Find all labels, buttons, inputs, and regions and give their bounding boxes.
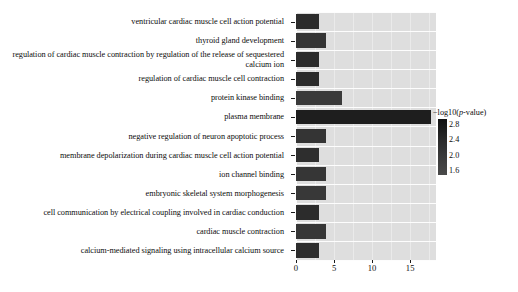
- y-axis-label: regulation of cardiac muscle contraction…: [0, 50, 284, 69]
- y-axis-labels: ventricular cardiac muscle cell action p…: [0, 12, 288, 260]
- go-enrichment-bar-chart: ventricular cardiac muscle cell action p…: [0, 0, 518, 292]
- gridline-horizontal: [296, 126, 436, 127]
- x-axis-tick-label: 15: [406, 263, 415, 273]
- y-axis-tick: [291, 79, 295, 80]
- y-axis-tick: [291, 98, 295, 99]
- colorbar-tick-label: 2.4: [449, 136, 459, 144]
- bar: [296, 52, 319, 67]
- y-axis-tick: [291, 22, 295, 23]
- colorbar-title-variable: p: [459, 108, 463, 117]
- y-axis-label: cell communication by electrical couplin…: [0, 208, 284, 217]
- bar: [296, 91, 342, 106]
- y-axis-label: cardiac muscle contraction: [0, 227, 284, 236]
- y-axis-tick: [291, 41, 295, 42]
- colorbar-tick-label: 2.8: [449, 121, 459, 129]
- y-axis-tick: [291, 60, 295, 61]
- y-axis-tick: [291, 174, 295, 175]
- colorbar-tick-label: 1.6: [449, 167, 459, 175]
- y-axis-label: membrane depolarization during cardiac m…: [0, 151, 284, 160]
- bar: [296, 186, 326, 201]
- bar: [296, 129, 326, 144]
- y-axis-label: ion channel binding: [0, 170, 284, 179]
- y-axis-tick: [291, 250, 295, 251]
- gridline-horizontal: [296, 241, 436, 242]
- x-axis-tick-label: 0: [294, 263, 298, 273]
- gridline-horizontal: [296, 203, 436, 204]
- gridline-horizontal: [296, 184, 436, 185]
- bar: [296, 110, 431, 125]
- y-axis-label: plasma membrane: [0, 112, 284, 121]
- bar: [296, 148, 319, 163]
- gridline-horizontal: [296, 222, 436, 223]
- bar: [296, 33, 326, 48]
- gridline-horizontal: [296, 31, 436, 32]
- colorbar-tick-label: 2.0: [449, 152, 459, 160]
- bar: [296, 167, 326, 182]
- y-axis-tick: [291, 193, 295, 194]
- gridline-horizontal: [296, 69, 436, 70]
- y-axis-label: ventricular cardiac muscle cell action p…: [0, 17, 284, 26]
- gridline-horizontal: [296, 88, 436, 89]
- y-axis-label: negative regulation of neuron apoptotic …: [0, 132, 284, 141]
- gridline-horizontal: [296, 12, 436, 13]
- y-axis-label: calcium-mediated signaling using intrace…: [0, 246, 284, 255]
- y-axis-tick: [291, 155, 295, 156]
- x-axis-tick-label: 5: [332, 263, 336, 273]
- y-axis-tick: [291, 117, 295, 118]
- y-axis-label: regulation of cardiac muscle cell contra…: [0, 74, 284, 83]
- y-axis-tick: [291, 136, 295, 137]
- x-axis: 051015: [296, 260, 436, 284]
- x-axis-tick-label: 10: [368, 263, 377, 273]
- gridline-horizontal: [296, 165, 436, 166]
- gridline-horizontal: [296, 146, 436, 147]
- bar: [296, 14, 319, 29]
- bar: [296, 72, 319, 87]
- colorbar-gradient: [438, 119, 447, 175]
- bar: [296, 224, 326, 239]
- bar: [296, 205, 319, 220]
- legend-colorbar: −log10(p-value) 2.82.42.01.6: [431, 108, 517, 188]
- colorbar-title: −log10(p-value): [433, 108, 486, 117]
- gridline-horizontal: [296, 107, 436, 108]
- y-axis-label: embryonic skeletal system morphogenesis: [0, 189, 284, 198]
- y-axis-tick: [291, 212, 295, 213]
- y-axis-label: protein kinase binding: [0, 93, 284, 102]
- gridline-horizontal: [296, 50, 436, 51]
- y-axis-tick: [291, 231, 295, 232]
- y-axis-label: thyroid gland development: [0, 36, 284, 45]
- bar: [296, 243, 319, 258]
- plot-panel: [296, 12, 436, 260]
